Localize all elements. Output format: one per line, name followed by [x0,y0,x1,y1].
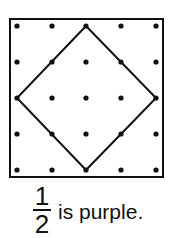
peg-dot [83,95,88,100]
peg-dot [49,23,54,28]
peg-dot [14,59,19,64]
peg-dot [153,59,158,64]
fraction: 1 2 [32,184,52,236]
peg-dot [83,59,88,64]
caption-text: is purple. [58,200,143,224]
peg-dot [153,95,158,100]
peg-dot [118,131,123,136]
fraction-denominator: 2 [35,212,49,236]
peg-dots [14,23,158,172]
geoboard [0,0,171,185]
peg-dot [14,95,19,100]
peg-dot [83,167,88,172]
peg-dot [153,167,158,172]
peg-dot [118,167,123,172]
peg-dot [118,23,123,28]
peg-dot [153,131,158,136]
peg-dot [153,23,158,28]
peg-dot [118,95,123,100]
peg-dot [49,59,54,64]
peg-dot [118,59,123,64]
peg-dot [83,23,88,28]
peg-dot [49,131,54,136]
peg-dot [83,131,88,136]
peg-dot [49,95,54,100]
fraction-numerator: 1 [35,184,49,208]
caption: 1 2 is purple. [32,183,143,237]
peg-dot [49,167,54,172]
peg-dot [14,131,19,136]
peg-dot [14,167,19,172]
peg-dot [14,23,19,28]
